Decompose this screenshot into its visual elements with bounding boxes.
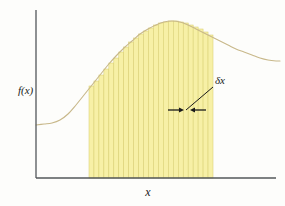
riemann-strip (134, 38, 139, 178)
integration-figure: f(x) x δx (0, 0, 285, 206)
delta-x-label: δx (215, 74, 225, 86)
riemann-strip (104, 69, 109, 178)
riemann-strip (109, 63, 114, 178)
riemann-strip (188, 25, 193, 178)
figure-canvas: f(x) x δx (0, 0, 285, 206)
riemann-strip (99, 75, 104, 178)
riemann-strip (203, 32, 208, 178)
riemann-strips (89, 21, 213, 178)
riemann-strip (94, 81, 99, 178)
riemann-strip (193, 27, 198, 178)
riemann-strip (89, 86, 94, 178)
riemann-strip (163, 22, 168, 178)
x-axis-label: x (144, 185, 151, 199)
riemann-strip (158, 23, 163, 178)
riemann-strip (119, 52, 124, 178)
y-axis-label: f(x) (18, 84, 34, 97)
riemann-strip (139, 34, 144, 178)
riemann-strip (178, 22, 183, 178)
riemann-strip (114, 58, 119, 178)
riemann-strip (124, 47, 129, 178)
riemann-strip (129, 42, 134, 178)
riemann-strip (149, 28, 154, 178)
riemann-strip (153, 25, 158, 178)
riemann-strip (208, 35, 213, 178)
riemann-strip (183, 23, 188, 178)
riemann-strip (173, 21, 178, 178)
riemann-strip (144, 31, 149, 178)
riemann-strip (198, 29, 203, 178)
riemann-strip (168, 21, 173, 178)
